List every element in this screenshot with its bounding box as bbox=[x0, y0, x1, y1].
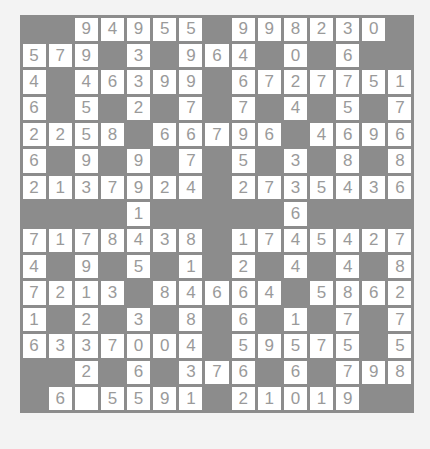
digit-cell[interactable]: 2 bbox=[75, 308, 98, 331]
digit-cell[interactable]: 7 bbox=[258, 176, 281, 199]
digit-cell[interactable]: 5 bbox=[127, 387, 150, 410]
digit-cell[interactable]: 2 bbox=[49, 281, 72, 304]
digit-cell[interactable]: 7 bbox=[258, 70, 281, 93]
digit-cell[interactable]: 5 bbox=[101, 387, 124, 410]
digit-cell[interactable]: 6 bbox=[232, 281, 255, 304]
digit-cell[interactable]: 4 bbox=[310, 123, 333, 146]
digit-cell[interactable]: 0 bbox=[362, 18, 385, 41]
digit-cell[interactable]: 9 bbox=[362, 123, 385, 146]
digit-cell[interactable]: 2 bbox=[127, 97, 150, 120]
digit-cell[interactable]: 3 bbox=[284, 176, 307, 199]
digit-cell[interactable]: 6 bbox=[101, 70, 124, 93]
digit-cell[interactable]: 6 bbox=[284, 361, 307, 384]
digit-cell[interactable]: 2 bbox=[49, 123, 72, 146]
digit-cell[interactable]: 8 bbox=[388, 361, 411, 384]
digit-cell[interactable]: 1 bbox=[49, 176, 72, 199]
digit-cell[interactable]: 2 bbox=[153, 176, 176, 199]
digit-cell[interactable]: 7 bbox=[310, 70, 333, 93]
digit-cell[interactable]: 6 bbox=[232, 308, 255, 331]
digit-cell[interactable]: 9 bbox=[232, 18, 255, 41]
digit-cell[interactable]: 9 bbox=[127, 18, 150, 41]
digit-cell[interactable]: 3 bbox=[336, 18, 359, 41]
digit-cell[interactable]: 4 bbox=[258, 281, 281, 304]
digit-cell[interactable]: 4 bbox=[336, 229, 359, 252]
digit-cell[interactable]: 4 bbox=[23, 70, 46, 93]
digit-cell[interactable]: 7 bbox=[23, 229, 46, 252]
digit-cell[interactable]: 9 bbox=[258, 18, 281, 41]
digit-cell[interactable]: 4 bbox=[179, 281, 202, 304]
digit-cell[interactable]: 7 bbox=[388, 229, 411, 252]
digit-cell[interactable]: 9 bbox=[75, 255, 98, 278]
digit-cell[interactable]: 5 bbox=[232, 334, 255, 357]
digit-cell[interactable]: 0 bbox=[127, 334, 150, 357]
digit-cell[interactable]: 1 bbox=[75, 281, 98, 304]
digit-cell[interactable]: 3 bbox=[75, 176, 98, 199]
digit-cell[interactable]: 5 bbox=[284, 334, 307, 357]
digit-cell[interactable]: 7 bbox=[49, 44, 72, 67]
digit-cell[interactable]: 7 bbox=[205, 123, 228, 146]
empty-cell[interactable] bbox=[75, 387, 98, 410]
digit-cell[interactable]: 4 bbox=[336, 176, 359, 199]
digit-cell[interactable]: 7 bbox=[75, 229, 98, 252]
digit-cell[interactable]: 7 bbox=[101, 176, 124, 199]
digit-cell[interactable]: 4 bbox=[232, 44, 255, 67]
digit-cell[interactable]: 5 bbox=[336, 334, 359, 357]
digit-cell[interactable]: 5 bbox=[310, 281, 333, 304]
digit-cell[interactable]: 5 bbox=[362, 70, 385, 93]
digit-cell[interactable]: 9 bbox=[153, 387, 176, 410]
digit-cell[interactable]: 8 bbox=[101, 229, 124, 252]
digit-cell[interactable]: 2 bbox=[232, 387, 255, 410]
digit-cell[interactable]: 5 bbox=[127, 255, 150, 278]
digit-cell[interactable]: 2 bbox=[232, 255, 255, 278]
digit-cell[interactable]: 9 bbox=[75, 149, 98, 172]
digit-cell[interactable]: 4 bbox=[101, 18, 124, 41]
digit-cell[interactable]: 7 bbox=[258, 229, 281, 252]
digit-cell[interactable]: 4 bbox=[179, 176, 202, 199]
digit-cell[interactable]: 0 bbox=[284, 387, 307, 410]
digit-cell[interactable]: 6 bbox=[49, 387, 72, 410]
digit-cell[interactable]: 5 bbox=[388, 334, 411, 357]
digit-cell[interactable]: 9 bbox=[258, 334, 281, 357]
digit-cell[interactable]: 9 bbox=[179, 44, 202, 67]
digit-cell[interactable]: 3 bbox=[127, 70, 150, 93]
digit-cell[interactable]: 9 bbox=[336, 387, 359, 410]
digit-cell[interactable]: 9 bbox=[362, 361, 385, 384]
digit-cell[interactable]: 8 bbox=[336, 281, 359, 304]
digit-cell[interactable]: 1 bbox=[179, 387, 202, 410]
digit-cell[interactable]: 1 bbox=[258, 387, 281, 410]
digit-cell[interactable]: 6 bbox=[205, 44, 228, 67]
digit-cell[interactable]: 4 bbox=[23, 255, 46, 278]
digit-cell[interactable]: 3 bbox=[179, 361, 202, 384]
digit-cell[interactable]: 1 bbox=[179, 255, 202, 278]
digit-cell[interactable]: 7 bbox=[336, 70, 359, 93]
digit-cell[interactable]: 3 bbox=[362, 176, 385, 199]
digit-cell[interactable]: 8 bbox=[388, 149, 411, 172]
digit-cell[interactable]: 8 bbox=[179, 308, 202, 331]
digit-cell[interactable]: 8 bbox=[179, 229, 202, 252]
digit-cell[interactable]: 6 bbox=[388, 123, 411, 146]
digit-cell[interactable]: 4 bbox=[284, 97, 307, 120]
digit-cell[interactable]: 6 bbox=[362, 281, 385, 304]
digit-cell[interactable]: 6 bbox=[205, 281, 228, 304]
digit-cell[interactable]: 7 bbox=[179, 97, 202, 120]
digit-cell[interactable]: 7 bbox=[336, 308, 359, 331]
digit-cell[interactable]: 7 bbox=[179, 149, 202, 172]
digit-cell[interactable]: 6 bbox=[23, 97, 46, 120]
digit-cell[interactable]: 7 bbox=[101, 334, 124, 357]
digit-cell[interactable]: 1 bbox=[49, 229, 72, 252]
digit-cell[interactable]: 2 bbox=[23, 176, 46, 199]
digit-cell[interactable]: 3 bbox=[153, 229, 176, 252]
digit-cell[interactable]: 5 bbox=[75, 97, 98, 120]
digit-cell[interactable]: 0 bbox=[153, 334, 176, 357]
digit-cell[interactable]: 2 bbox=[232, 176, 255, 199]
digit-cell[interactable]: 8 bbox=[101, 123, 124, 146]
digit-cell[interactable]: 5 bbox=[310, 176, 333, 199]
digit-cell[interactable]: 7 bbox=[23, 281, 46, 304]
digit-cell[interactable]: 6 bbox=[153, 123, 176, 146]
digit-cell[interactable]: 6 bbox=[388, 176, 411, 199]
digit-cell[interactable]: 1 bbox=[310, 387, 333, 410]
digit-cell[interactable]: 6 bbox=[258, 123, 281, 146]
digit-cell[interactable]: 3 bbox=[101, 281, 124, 304]
digit-cell[interactable]: 9 bbox=[232, 123, 255, 146]
digit-cell[interactable]: 6 bbox=[232, 70, 255, 93]
